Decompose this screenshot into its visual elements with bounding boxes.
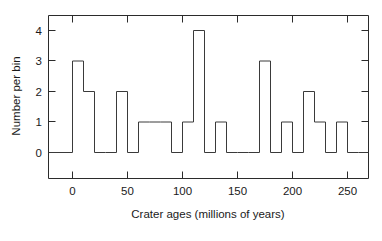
y-tick-label-0: 0: [36, 147, 42, 159]
x-tick-label-100: 100: [173, 185, 192, 197]
x-tick-label-200: 200: [283, 185, 302, 197]
x-tick-label-50: 50: [121, 185, 134, 197]
x-axis-ticks: [73, 172, 348, 179]
y-tick-labels: 0 1 2 3 4: [36, 25, 43, 159]
histogram-figure: 0 1 2 3 4 0 50 100 150 200 250 Crater ag…: [0, 0, 382, 241]
x-tick-labels: 0 50 100 150 200 250: [69, 185, 357, 197]
x-tick-label-250: 250: [338, 185, 357, 197]
plot-frame: [49, 16, 369, 179]
y-axis-title: Number per bin: [10, 56, 22, 135]
y-tick-label-3: 3: [36, 55, 42, 67]
y-tick-label-2: 2: [36, 86, 42, 98]
y-tick-label-4: 4: [36, 25, 43, 37]
axes-border: [49, 16, 369, 179]
chart-svg: 0 1 2 3 4 0 50 100 150 200 250 Crater ag…: [0, 0, 382, 241]
y-axis-ticks-right: [362, 31, 369, 153]
x-tick-label-0: 0: [69, 185, 75, 197]
x-axis-ticks-top: [73, 16, 348, 23]
x-axis-title: Crater ages (millions of years): [131, 208, 285, 220]
x-tick-label-150: 150: [228, 185, 247, 197]
y-tick-label-1: 1: [36, 116, 42, 128]
histogram-step-outline: [49, 31, 369, 153]
y-axis-ticks: [49, 31, 56, 153]
